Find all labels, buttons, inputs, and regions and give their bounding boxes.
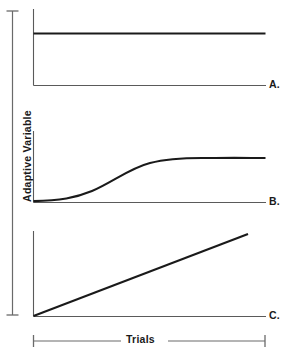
panel-b-axes xyxy=(34,131,267,203)
x-axis-label: Trials xyxy=(126,333,155,345)
panel-b xyxy=(34,131,267,203)
panel-c-label: C. xyxy=(269,309,280,321)
panel-b-curve xyxy=(34,158,266,201)
panel-c-curve xyxy=(34,234,249,316)
panel-c xyxy=(34,231,267,317)
learning-curves-figure: Adaptive Variable Trials A. B. C. xyxy=(0,0,285,352)
panel-b-label: B. xyxy=(269,195,280,207)
panel-a-axes xyxy=(34,9,267,86)
figure-canvas xyxy=(0,0,285,352)
y-axis-bracket xyxy=(7,11,19,315)
panel-a-label: A. xyxy=(269,78,280,90)
y-axis-label: Adaptive Variable xyxy=(19,96,35,216)
panel-a xyxy=(34,9,267,86)
